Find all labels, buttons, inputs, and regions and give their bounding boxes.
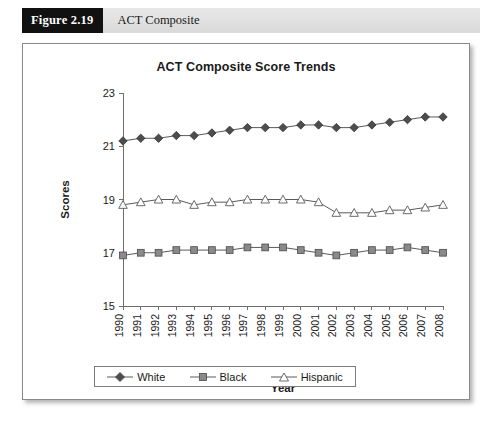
data-point-square	[244, 244, 251, 251]
data-point-diamond	[225, 126, 233, 134]
figure-header: Figure 2.19 ACT Composite	[22, 8, 480, 33]
x-tick-label: 1996	[220, 314, 232, 338]
x-tick-label: 2007	[415, 314, 427, 338]
data-point-diamond	[243, 123, 251, 131]
y-tick-label: 19	[103, 194, 115, 206]
data-point-diamond	[172, 131, 180, 139]
data-point-triangle	[439, 201, 448, 209]
x-tick-label: 1999	[273, 314, 285, 338]
axis-labels-group: 1517192123199019911992199319941995199619…	[59, 87, 445, 394]
data-point-square	[404, 244, 411, 251]
x-tick-label: 2004	[362, 314, 374, 338]
legend-marker-diamond-icon	[107, 371, 133, 383]
legend-label-white: White	[137, 371, 165, 383]
data-point-square	[368, 247, 375, 254]
series-hispanic	[119, 195, 448, 216]
legend-item-hispanic: Hispanic	[271, 371, 343, 383]
figure-number-label: Figure 2.19	[31, 13, 93, 28]
data-point-diamond	[350, 123, 358, 131]
data-point-diamond	[332, 123, 340, 131]
x-tick-label: 2001	[309, 314, 321, 338]
y-tick-label: 17	[103, 247, 115, 259]
data-point-diamond	[261, 123, 269, 131]
data-point-square	[173, 247, 180, 254]
x-tick-label: 1995	[202, 314, 214, 338]
y-tick-label: 23	[103, 87, 115, 99]
x-tick-label: 1997	[237, 314, 249, 338]
data-point-square	[315, 249, 322, 256]
x-tick-label: 1994	[184, 314, 196, 338]
series-black	[120, 244, 447, 259]
x-tick-label: 1992	[149, 314, 161, 338]
data-point-diamond	[279, 123, 287, 131]
y-tick-label: 15	[103, 300, 115, 312]
data-point-diamond	[368, 121, 376, 129]
data-point-square	[191, 247, 198, 254]
x-tick-label: 1991	[131, 314, 143, 338]
data-point-square	[137, 249, 144, 256]
data-point-square	[120, 252, 127, 259]
x-tick-label: 2003	[344, 314, 356, 338]
data-point-square	[297, 247, 304, 254]
plot-area: 1517192123199019911992199319941995199619…	[23, 44, 471, 401]
legend-label-black: Black	[220, 371, 247, 383]
figure-caption: ACT Composite	[103, 8, 199, 33]
data-point-square	[351, 249, 358, 256]
data-point-square	[386, 247, 393, 254]
legend-label-hispanic: Hispanic	[301, 371, 343, 383]
legend-item-white: White	[107, 371, 165, 383]
series-group	[119, 113, 448, 259]
data-point-diamond	[154, 134, 162, 142]
data-point-diamond	[137, 134, 145, 142]
data-point-diamond	[297, 121, 305, 129]
data-point-diamond	[119, 137, 127, 145]
data-point-square	[280, 244, 287, 251]
legend-item-black: Black	[190, 371, 247, 383]
data-point-square	[262, 244, 269, 251]
x-tick-label: 2002	[326, 314, 338, 338]
legend-marker-triangle-icon	[271, 371, 297, 383]
data-point-diamond	[403, 115, 411, 123]
x-tick-label: 2008	[433, 314, 445, 338]
data-point-square	[226, 247, 233, 254]
x-tick-label: 2005	[380, 314, 392, 338]
data-point-diamond	[190, 131, 198, 139]
x-tick-label: 1998	[255, 314, 267, 338]
x-tick-label: 2006	[397, 314, 409, 338]
data-point-diamond	[208, 129, 216, 137]
legend-marker-square-icon	[190, 371, 216, 383]
data-point-square	[208, 247, 215, 254]
x-tick-label: 1993	[166, 314, 178, 338]
y-axis-title: Scores	[59, 180, 71, 218]
x-tick-label: 2000	[291, 314, 303, 338]
data-point-square	[422, 247, 429, 254]
chart-legend: White Black Hispanic	[94, 366, 356, 387]
data-point-diamond	[385, 118, 393, 126]
y-tick-label: 21	[103, 140, 115, 152]
data-point-square	[333, 252, 340, 259]
x-tick-label: 1990	[113, 314, 125, 338]
data-point-diamond	[439, 113, 447, 121]
line-chart-svg: 1517192123199019911992199319941995199619…	[23, 44, 471, 401]
series-white	[119, 113, 447, 145]
data-point-square	[155, 249, 162, 256]
data-point-square	[440, 249, 447, 256]
data-point-diamond	[314, 121, 322, 129]
chart-card: ACT Composite Score Trends 1517192123199…	[22, 43, 470, 400]
figure-number-badge: Figure 2.19	[22, 8, 103, 33]
data-point-diamond	[421, 113, 429, 121]
